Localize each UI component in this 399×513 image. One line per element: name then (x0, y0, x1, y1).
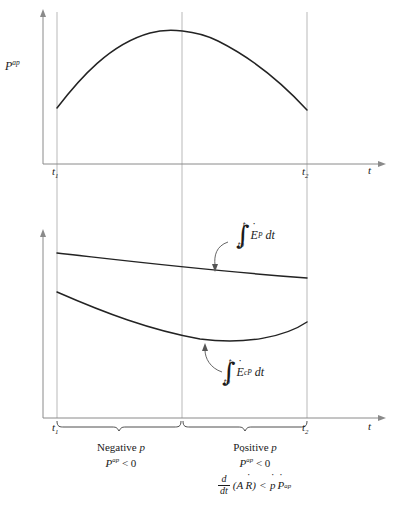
upper-y-axis-label-sup: ap (12, 58, 19, 67)
lower-xtick-t1-sub: 1 (55, 428, 58, 435)
caption-negative-symbol: p (139, 441, 145, 453)
figure-container: Pap t1 t2 t t1 t2 t ∫tt0 EP dt ∫tt0 EcP … (0, 0, 399, 513)
caption-positive-line1: Positive p (200, 440, 310, 455)
lower-panel (40, 229, 386, 421)
caption-positive-p-sup: ap (246, 456, 253, 463)
equation-rhs-P-dot: P (278, 479, 285, 491)
lower-xtick-t2: t2 (302, 422, 308, 436)
r-dot-symbol: R (245, 479, 252, 491)
lower-x-axis-arrowhead (378, 415, 386, 421)
integral-top-lower-limit: t0 (238, 242, 244, 249)
integral-top-upper-limit: t (243, 222, 246, 229)
leader-line-top-integral (215, 242, 228, 265)
caption-positive-p-base: P (240, 456, 247, 471)
lower-y-axis-arrowhead (40, 229, 46, 237)
figure-svg (0, 0, 399, 513)
integral-sign-icon: ∫tt0 (236, 225, 250, 246)
differential-dt: dt (265, 228, 274, 243)
caption-positive-line2: Pap < 0 (200, 455, 310, 471)
lower-x-axis-label: t (368, 421, 371, 432)
fraction-numerator: d (219, 474, 228, 485)
leader-arrowhead-bottom-integral (202, 343, 208, 351)
annotation-integral-e-dot-p: ∫tt0 EP dt (236, 225, 275, 246)
fraction-denominator: dt (218, 485, 230, 497)
caption-final-equation: d dt (A R) < pPap (218, 474, 291, 496)
upper-y-axis-arrowhead (40, 9, 46, 17)
annotation-integral-e-dot-c-p: ∫tt0 EcP dt (222, 362, 264, 383)
caption-negative-p-sup: ap (112, 456, 119, 463)
caption-positive-relation: < 0 (256, 457, 270, 469)
upper-xtick-t1: t1 (52, 166, 58, 180)
upper-xtick-t1-sub: 1 (55, 172, 58, 179)
leader-line-bottom-integral (205, 350, 222, 372)
upper-xtick-t2: t2 (302, 166, 308, 180)
integrand-ec-dot: E (237, 365, 244, 380)
caption-negative-relation: < 0 (122, 457, 136, 469)
equation-rhs-p-dot: p (270, 479, 276, 491)
upper-x-axis-arrowhead (378, 161, 386, 167)
caption-positive-word: Positive (233, 441, 268, 453)
derivative-fraction: d dt (218, 474, 230, 496)
upper-xtick-t2-sub: 2 (305, 172, 308, 179)
differential-dt: dt (255, 365, 264, 380)
caption-negative-region: Negative p Pap < 0 (66, 440, 176, 470)
equation-lhs-body: (A R) (233, 479, 256, 491)
lower-xtick-t1: t1 (52, 422, 58, 436)
upper-x-axis-label: t (368, 165, 371, 176)
integral-sign-icon: ∫tt0 (222, 362, 236, 383)
caption-negative-line2: Pap < 0 (66, 455, 176, 471)
caption-negative-line1: Negative p (66, 440, 176, 455)
caption-negative-word: Negative (97, 441, 137, 453)
lower-xtick-t2-sub: 2 (305, 428, 308, 435)
integrand-e-superscript: P (258, 231, 263, 240)
equation-rhs-P-sup: ap (284, 482, 291, 489)
upper-y-axis-label: Pap (5, 59, 20, 72)
caption-positive-region: Positive p Pap < 0 (200, 440, 310, 470)
upper-panel (40, 9, 386, 167)
equation-relation: < (260, 479, 266, 491)
integral-bottom-lower-limit: t0 (224, 379, 230, 386)
brace-negative-region (57, 421, 181, 431)
integral-bottom-upper-limit: t (229, 359, 232, 366)
caption-positive-symbol: p (271, 441, 277, 453)
brace-positive-region (183, 421, 307, 431)
integrand-e-dot: E (251, 228, 258, 243)
integrand-ec-superscript: P (247, 368, 252, 377)
